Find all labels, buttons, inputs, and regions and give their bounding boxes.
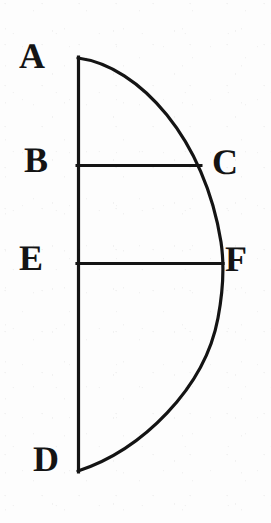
- vertex-label-f: F: [225, 241, 247, 277]
- vertex-label-c: C: [212, 144, 238, 180]
- vertex-label-a: A: [19, 38, 45, 74]
- vertex-label-d: D: [33, 441, 59, 477]
- vertex-label-e: E: [19, 240, 43, 276]
- figure-page: A B C E F D: [0, 0, 271, 523]
- vertex-label-b: B: [24, 142, 48, 178]
